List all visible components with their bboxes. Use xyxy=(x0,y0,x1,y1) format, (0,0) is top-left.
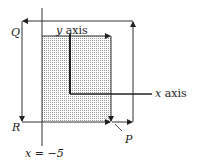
label-q: Q xyxy=(11,26,20,39)
shaded-region xyxy=(42,36,111,122)
p-leader-line xyxy=(115,124,122,131)
diagram-canvas: Q R P y axis x axis x = −5 xyxy=(0,0,197,168)
label-p: P xyxy=(124,133,133,146)
label-y-axis: y axis xyxy=(55,24,88,37)
label-r: R xyxy=(11,121,20,134)
label-x-axis: x axis xyxy=(155,87,187,100)
label-line-equation: x = −5 xyxy=(25,147,64,160)
